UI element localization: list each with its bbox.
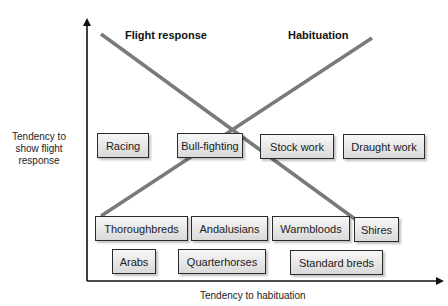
use-box-bull-fighting: Bull-fighting (177, 133, 243, 158)
flight-response-label: Flight response (125, 29, 207, 41)
breed-box-warmbloods: Warmbloods (272, 216, 350, 241)
breed-box-standard-breds: Standard breds (290, 250, 383, 275)
x-axis-label: Tendency to habituation (200, 290, 306, 302)
breed-box-thoroughbreds: Thoroughbreds (95, 216, 188, 241)
flight-response-line (101, 34, 370, 230)
y-axis-label-line: show flight (6, 143, 72, 155)
use-box-racing: Racing (97, 133, 149, 158)
y-axis-label: Tendency to show flight response (6, 131, 72, 167)
breed-box-andalusians: Andalusians (191, 216, 268, 241)
breed-box-shires: Shires (354, 217, 399, 242)
breed-box-quarterhorses: Quarterhorses (178, 249, 266, 274)
use-box-draught-work: Draught work (343, 134, 425, 159)
y-axis-label-line: response (6, 155, 72, 167)
habituation-label: Habituation (288, 29, 349, 41)
use-box-stock-work: Stock work (260, 134, 334, 159)
y-axis-label-line: Tendency to (6, 131, 72, 143)
breed-box-arabs: Arabs (112, 249, 156, 274)
